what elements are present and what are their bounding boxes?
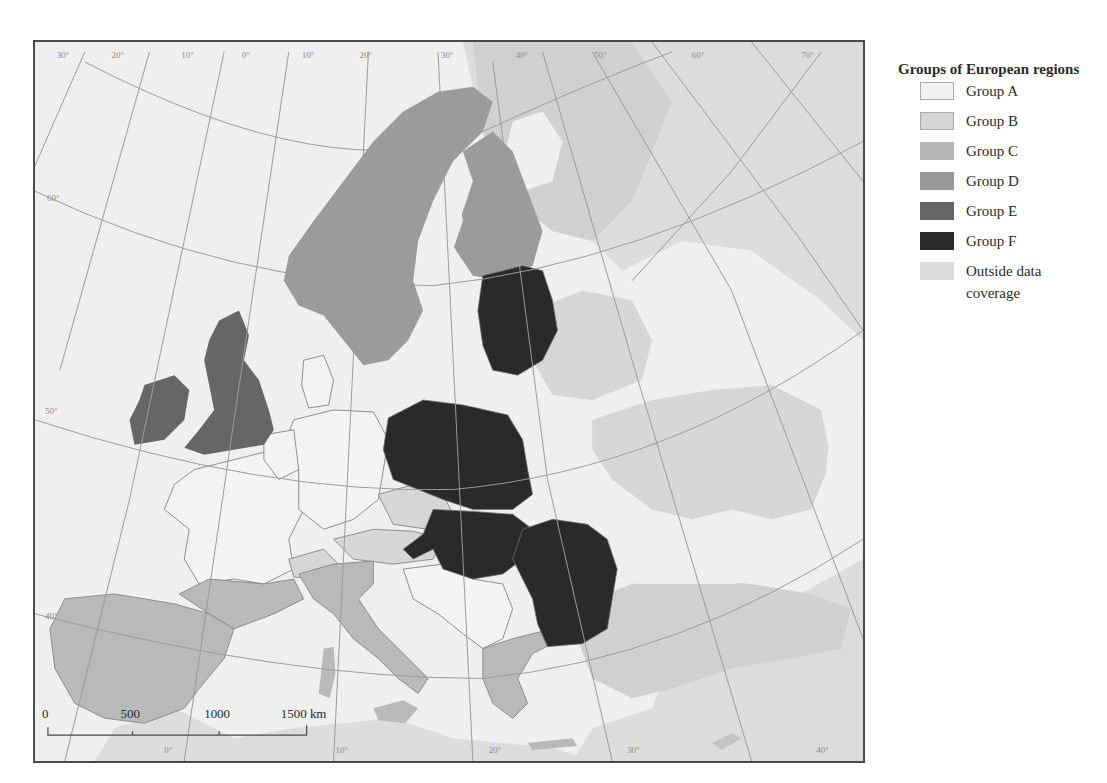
svg-text:40°: 40° [816, 745, 829, 755]
svg-text:60°: 60° [692, 50, 705, 60]
svg-text:1500 km: 1500 km [281, 706, 327, 721]
legend-label: Group C [966, 142, 1018, 160]
legend-swatch-group-e [920, 202, 954, 220]
legend-label: Group D [966, 172, 1019, 190]
legend-item-group-e: Group E [898, 202, 1098, 232]
svg-text:10°: 10° [181, 50, 194, 60]
svg-text:1000: 1000 [204, 706, 230, 721]
legend-label: Group E [966, 202, 1017, 220]
svg-text:0°: 0° [242, 50, 250, 60]
svg-text:0°: 0° [164, 745, 172, 755]
map-legend: Groups of European regions Group A Group… [898, 60, 1098, 310]
legend-label: Group B [966, 112, 1018, 130]
legend-item-group-d: Group D [898, 172, 1098, 202]
legend-item-group-f: Group F [898, 232, 1098, 262]
legend-swatch-group-f [920, 232, 954, 250]
europe-map: 30° 20° 10° 0° 10° 20° 30° 40° 50° 60° 7… [35, 42, 863, 761]
legend-title: Groups of European regions [898, 60, 1098, 79]
svg-text:40°: 40° [45, 611, 58, 621]
svg-text:50°: 50° [594, 50, 607, 60]
legend-item-group-a: Group A [898, 82, 1098, 112]
svg-text:20°: 20° [489, 745, 502, 755]
legend-swatch-group-a [920, 82, 954, 100]
svg-text:70°: 70° [801, 50, 814, 60]
legend-item-outside-coverage: Outside data coverage [898, 262, 1098, 310]
svg-text:500: 500 [121, 706, 140, 721]
legend-label: Group A [966, 82, 1018, 100]
svg-text:30°: 30° [627, 745, 640, 755]
legend-item-group-c: Group C [898, 142, 1098, 172]
svg-text:60°: 60° [47, 193, 60, 203]
legend-swatch-outside-coverage [920, 262, 954, 280]
legend-swatch-group-c [920, 142, 954, 160]
legend-swatch-group-d [920, 172, 954, 190]
legend-label: Group F [966, 232, 1016, 250]
svg-text:30°: 30° [57, 50, 70, 60]
svg-text:10°: 10° [302, 50, 315, 60]
svg-text:40°: 40° [516, 50, 529, 60]
legend-label: Outside data coverage [966, 260, 1056, 304]
svg-text:10°: 10° [336, 745, 349, 755]
svg-text:0: 0 [42, 706, 48, 721]
map-frame: 30° 20° 10° 0° 10° 20° 30° 40° 50° 60° 7… [33, 40, 865, 763]
svg-text:30°: 30° [441, 50, 454, 60]
svg-text:20°: 20° [112, 50, 125, 60]
svg-text:50°: 50° [45, 406, 58, 416]
svg-text:20°: 20° [359, 50, 372, 60]
legend-swatch-group-b [920, 112, 954, 130]
legend-item-group-b: Group B [898, 112, 1098, 142]
